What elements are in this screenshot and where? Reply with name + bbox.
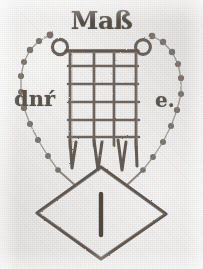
grid-horizontal-lines xyxy=(68,66,139,137)
left-inscription: dnŕ xyxy=(14,88,55,109)
right-inscription: e. xyxy=(155,90,175,110)
shield-side-lines xyxy=(58,170,143,186)
watermark-figure: Maß dnŕ e. xyxy=(0,0,203,269)
device-prongs xyxy=(70,140,137,170)
top-inscription: Maß xyxy=(0,8,203,33)
mark-drawing xyxy=(0,0,203,269)
